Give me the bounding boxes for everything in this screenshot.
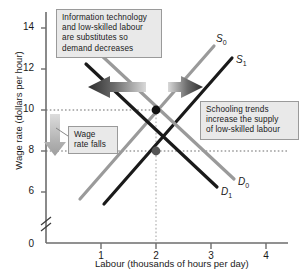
- initial-equilibrium-dot: [152, 106, 161, 115]
- y-axis-title: Wage rate (dollars per hour): [13, 41, 24, 181]
- curve-label-s0: S0: [216, 33, 227, 46]
- annotation-wage-line-2: rate falls: [74, 140, 113, 150]
- annotation-wage-line-1: Wage: [74, 130, 113, 140]
- curve-label-d1: D1: [221, 186, 232, 199]
- annotation-demand-line-1: Information technology: [62, 13, 157, 23]
- down-arrow-icon: [44, 114, 66, 156]
- annotation-wage-fall: Wage rate falls: [68, 126, 118, 154]
- x-axis-title: Labour (thousands of hours per day): [95, 258, 249, 269]
- annotation-supply-line-2: increase the supply: [206, 115, 294, 125]
- curve-label-d1-sub: 1: [228, 192, 232, 199]
- curve-label-d0-sub: 0: [245, 182, 249, 189]
- annotation-supply-shift: Schooling trends increase the supply of …: [200, 101, 299, 140]
- x-tick-4: 4: [260, 250, 272, 261]
- annotation-supply-line-1: Schooling trends: [206, 105, 294, 115]
- annotation-supply-line-3: of low-skilled labour: [206, 125, 294, 135]
- y-tick-6: 6: [16, 185, 34, 196]
- curve-label-s0-text: S: [216, 33, 223, 44]
- annotation-demand-line-3: are substitutes so: [62, 33, 157, 43]
- annotation-demand-shift: Information technology and low-skilled l…: [56, 9, 162, 58]
- annotation-demand-line-2: and low-skilled labour: [62, 23, 157, 33]
- new-equilibrium-dot: [152, 147, 161, 156]
- chart-figure: 14 12 10 8 6 0 1 2 3 4 Wage rate (dollar…: [0, 0, 302, 276]
- y-tick-0: 0: [16, 238, 34, 249]
- curve-label-s1-text: S: [236, 54, 243, 65]
- curve-label-d0: D0: [238, 176, 249, 189]
- curve-label-s0-sub: 0: [223, 39, 227, 46]
- x-axis-ticks: [101, 243, 266, 249]
- annotation-demand-line-4: demand decreases: [62, 44, 157, 54]
- y-tick-14: 14: [16, 21, 34, 32]
- curve-label-s1-sub: 1: [243, 60, 247, 67]
- curve-label-s1: S1: [236, 54, 247, 67]
